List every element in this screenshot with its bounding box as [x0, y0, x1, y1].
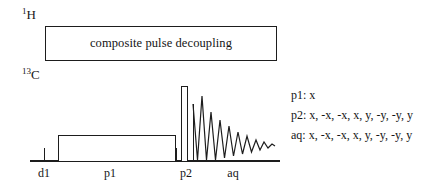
channel-label-carbon: 13C [22, 68, 40, 81]
nmr-pulse-sequence-figure: 1H composite pulse decoupling 13C d1 p1 … [0, 0, 445, 194]
interval-label-d1: d1 [14, 166, 74, 181]
carbon-mass-number: 13 [22, 66, 31, 76]
channel-label-proton: 1H [22, 8, 36, 21]
fid-waveform [193, 96, 275, 162]
carbon-element: C [31, 67, 40, 82]
pulse-p2 [181, 86, 188, 161]
interval-label-aq: aq [203, 166, 263, 181]
phase-cycle-p1: p1: x [291, 85, 443, 105]
fid-curve [193, 96, 275, 160]
phase-cycling-list: p1: x p2: x, -x, -x, x, y, -y, -y, y aq:… [291, 85, 443, 145]
pulse-p1 [58, 135, 176, 161]
proton-element: H [27, 7, 36, 22]
decoupling-label: composite pulse decoupling [90, 36, 232, 51]
axis-tick-d1-start [44, 148, 45, 161]
axis-tick-p1-end [176, 148, 177, 161]
phase-cycle-p2: p2: x, -x, -x, x, y, -y, -y, y [291, 105, 443, 125]
decoupling-block: composite pulse decoupling [45, 26, 277, 61]
interval-label-p1: p1 [80, 166, 140, 181]
phase-cycle-aq: aq: x, -x, -x, x, y, -y, -y, y [291, 125, 443, 145]
